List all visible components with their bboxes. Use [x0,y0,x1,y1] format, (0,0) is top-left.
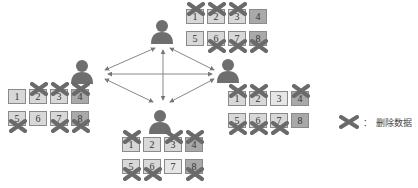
data-block-7: 7 [228,31,246,46]
delete-x-icon [208,2,226,16]
data-block-1: 1 [122,137,140,152]
data-block-6: 6 [29,111,47,126]
legend-label: 删除数据 [376,116,412,129]
data-grid-top: 12345678 [186,9,267,46]
data-block-4: 4 [71,89,89,104]
data-block-4: 4 [185,137,203,152]
data-block-1: 1 [228,91,246,106]
delete-x-icon [187,2,205,16]
delete-x-icon [72,82,90,96]
delete-x-icon [72,119,90,133]
data-block-5: 5 [122,159,140,174]
data-block-5: 5 [228,113,246,128]
data-grid-right: 12345678 [228,91,309,128]
delete-x-icon [186,167,204,181]
user-left-icon [69,58,95,84]
delete-x-icon [229,39,247,53]
delete-x-icon [9,119,27,133]
delete-x-icon [229,2,247,16]
block-number: 2 [150,139,155,150]
delete-x-icon [51,119,69,133]
delete-x-icon [229,84,247,98]
data-block-8: 8 [291,113,309,128]
user-right-icon [215,57,241,83]
arrow-left-bottom [105,79,153,102]
data-block-3: 3 [270,91,288,106]
data-grid-left: 12345678 [8,89,89,126]
data-block-7: 7 [50,111,68,126]
data-block-4: 4 [291,91,309,106]
data-block-4: 4 [249,9,267,24]
block-number: 7 [171,161,176,172]
data-block-6: 6 [207,31,225,46]
legend-separator: ： [363,116,372,129]
arrow-right-bottom [170,79,214,102]
data-block-5: 5 [8,111,26,126]
delete-x-icon [208,39,226,53]
delete-x-icon [250,39,268,53]
delete-x-icon [123,130,141,144]
data-block-3: 3 [50,89,68,104]
data-block-2: 2 [207,9,225,24]
delete-x-icon [51,82,69,96]
data-block-1: 1 [186,9,204,24]
delete-x-icon [271,121,289,135]
data-block-8: 8 [185,159,203,174]
user-top-icon [149,18,175,44]
data-block-5: 5 [186,31,204,46]
delete-x-icon [144,167,162,181]
delete-x-icon [292,84,310,98]
delete-x-icon [186,130,204,144]
delete-x-icon [165,130,183,144]
delete-x-icon [123,167,141,181]
data-block-7: 7 [164,159,182,174]
delete-x-icon [250,121,268,135]
data-block-8: 8 [71,111,89,126]
block-number: 1 [15,91,20,102]
data-block-3: 3 [228,9,246,24]
data-block-6: 6 [143,159,161,174]
x-mark-icon [339,115,359,129]
block-number: 6 [36,113,41,124]
data-block-6: 6 [249,113,267,128]
block-number: 8 [298,115,303,126]
legend: ： 删除数据 [339,115,412,129]
data-block-2: 2 [249,91,267,106]
block-number: 3 [277,93,282,104]
data-block-2: 2 [143,137,161,152]
data-block-3: 3 [164,137,182,152]
delete-x-icon [250,84,268,98]
data-grid-bottom: 12345678 [122,137,203,174]
arrow-top-left [105,48,155,70]
data-block-2: 2 [29,89,47,104]
block-number: 4 [256,11,261,22]
data-block-1: 1 [8,89,26,104]
block-number: 5 [193,33,198,44]
data-block-8: 8 [249,31,267,46]
data-block-7: 7 [270,113,288,128]
delete-x-icon [30,82,48,96]
delete-x-icon [229,121,247,135]
